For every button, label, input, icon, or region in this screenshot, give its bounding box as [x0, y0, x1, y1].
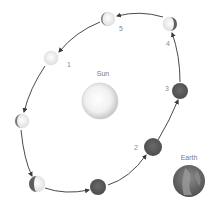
earth: Earth: [173, 154, 205, 197]
sun-disc: [82, 83, 118, 119]
orbit-arrow-5-to-1: [59, 22, 100, 52]
moon-label-3: 3: [165, 85, 169, 92]
sun-label: Sun: [97, 70, 110, 77]
moon-phase-bottom: [90, 179, 106, 195]
moon-phases-diagram: Sun 1 2 3 4 5 Earth: [0, 0, 219, 207]
orbit-arrow-left-to-bottomleft: [21, 130, 32, 176]
orbit-arrow-bottom-to-2: [108, 155, 146, 185]
orbit-arrow-3-to-4: [172, 33, 180, 82]
moon-label-1: 1: [67, 61, 71, 68]
moon-label-2: 2: [134, 144, 138, 151]
moon-phase-1: 1: [44, 51, 71, 68]
orbit-arrow-bottomleft-to-bottom: [45, 188, 89, 192]
moon-phase-left: [15, 114, 29, 128]
earth-label: Earth: [181, 154, 198, 161]
orbit-arrow-4-to-5: [117, 13, 163, 17]
orbit-arrow-2-to-3: [158, 100, 178, 140]
moon-phase-bottom-left: [29, 176, 45, 192]
moon-label-5: 5: [119, 25, 123, 32]
orbit-arrow-1-to-left: [24, 66, 45, 112]
sun: Sun: [82, 70, 118, 119]
moon-phase-2: 2: [134, 138, 162, 156]
moon-label-4: 4: [166, 40, 170, 47]
moon-phase-3: 3: [165, 83, 188, 99]
